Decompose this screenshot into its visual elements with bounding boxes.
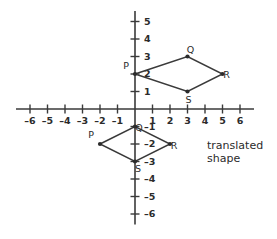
x-axis-tick-label: 2 [167, 115, 174, 126]
x-axis-tick-label: –3 [77, 115, 88, 126]
x-axis-tick-label: –6 [24, 115, 36, 126]
vertex-label-P: P [88, 129, 94, 140]
vertex-label-Q: Q [135, 122, 142, 133]
y-axis-tick-label: –5 [144, 191, 155, 202]
y-axis-tick-label: 3 [144, 51, 151, 62]
tick-labels-group: –6–5–4–3–2–112345654321–1–2–3–4–5–6 [24, 16, 243, 220]
coordinate-plane-svg: –6–5–4–3–2–112345654321–1–2–3–4–5–6 PQRS… [0, 0, 277, 239]
coordinate-plane-figure: –6–5–4–3–2–112345654321–1–2–3–4–5–6 PQRS… [0, 0, 277, 239]
translated-shape-annotation: translated shape [207, 139, 263, 165]
vertex-label-P: P [123, 60, 129, 71]
y-axis-tick-label: –4 [144, 173, 156, 184]
vertex-dot-P [98, 142, 102, 146]
x-axis-tick-label: –2 [94, 115, 105, 126]
x-axis-tick-label: 5 [219, 115, 226, 126]
y-axis-tick-label: –6 [144, 208, 156, 219]
y-axis-tick-label: –1 [144, 121, 155, 132]
vertex-label-S: S [135, 163, 141, 174]
x-axis-tick-label: 3 [184, 115, 191, 126]
x-axis-tick-label: –4 [59, 115, 71, 126]
vertex-label-S: S [185, 94, 191, 105]
vertex-label-R: R [171, 140, 178, 151]
x-axis-tick-label: 4 [202, 115, 209, 126]
vertex-label-R: R [223, 69, 230, 80]
y-axis-tick-label: 4 [144, 33, 151, 44]
vertex-dot-P [133, 72, 137, 76]
vertex-dot-Q [185, 54, 189, 58]
y-axis-tick-label: 1 [144, 86, 151, 97]
y-axis-tick-label: 5 [144, 16, 151, 27]
x-axis-tick-label: 6 [237, 115, 244, 126]
x-axis-tick-label: –5 [42, 115, 53, 126]
vertex-label-Q: Q [187, 44, 194, 55]
y-axis-tick-label: –3 [144, 156, 155, 167]
x-axis-tick-label: –1 [112, 115, 123, 126]
y-axis-tick-label: –2 [144, 138, 155, 149]
